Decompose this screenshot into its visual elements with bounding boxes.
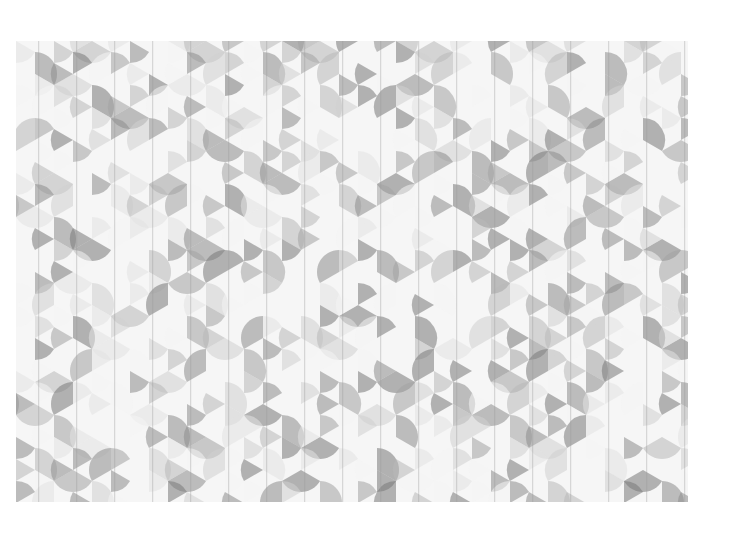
tessellation-canvas — [16, 41, 688, 502]
geometric-pattern-artwork — [16, 41, 688, 502]
